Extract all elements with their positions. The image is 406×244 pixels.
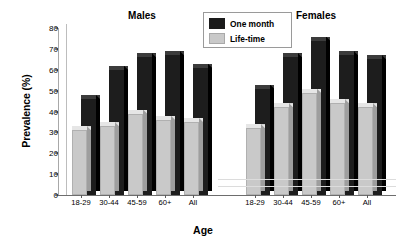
x-tick-mark (137, 195, 138, 198)
x-tick-label: 60+ (333, 198, 346, 207)
x-tick-label: All (363, 198, 371, 207)
bar (184, 122, 199, 195)
bar (156, 120, 171, 195)
x-tick-label: 45-59 (127, 198, 146, 207)
legend-label-life-time: Life-time (230, 34, 265, 44)
x-tick-mark (193, 195, 194, 198)
x-tick-label: 30-44 (99, 198, 118, 207)
bar (358, 107, 373, 195)
bar (274, 107, 289, 195)
legend-item-life-time: Life-time (209, 32, 265, 45)
x-tick-label: 30-44 (273, 198, 292, 207)
legend-item-one-month: One month (209, 17, 274, 30)
y-axis-line-inner (66, 24, 67, 195)
bar (100, 126, 115, 195)
y-tick-label: 20 (28, 149, 58, 158)
prevalence-bar-chart: Prevalence (%) Age 01020304050607080 18-… (0, 0, 406, 244)
y-tick-label: 10 (28, 170, 58, 179)
y-axis-line (58, 28, 59, 195)
legend-swatch-one-month (209, 18, 225, 29)
chart-legend: One month Life-time (203, 12, 292, 48)
y-tick-label: 60 (28, 65, 58, 74)
bar (330, 103, 345, 195)
grid-line (218, 179, 396, 180)
x-tick-mark (283, 195, 284, 198)
x-tick-mark (339, 195, 340, 198)
x-tick-mark (109, 195, 110, 198)
bar (72, 130, 87, 195)
y-tick-label: 40 (28, 107, 58, 116)
y-tick-label: 50 (28, 86, 58, 95)
y-tick-label: 30 (28, 128, 58, 137)
panel-title: Females (296, 10, 336, 21)
legend-swatch-life-time (209, 33, 225, 44)
y-tick-label: 70 (28, 44, 58, 53)
x-tick-mark (165, 195, 166, 198)
y-tick-label: 0 (28, 191, 58, 200)
x-tick-mark (255, 195, 256, 198)
x-axis-title: Age (0, 224, 406, 236)
x-tick-mark (367, 195, 368, 198)
bar (128, 114, 143, 195)
y-tick-label: 80 (28, 24, 58, 33)
x-tick-mark (81, 195, 82, 198)
x-tick-label: All (189, 198, 197, 207)
panel-title: Males (128, 10, 156, 21)
legend-label-one-month: One month (230, 19, 274, 29)
x-tick-mark (311, 195, 312, 198)
y-axis: 01020304050607080 (24, 0, 58, 244)
x-tick-label: 18-29 (245, 198, 264, 207)
x-tick-label: 18-29 (71, 198, 90, 207)
x-tick-label: 60+ (159, 198, 172, 207)
plot-area: 18-2930-4445-5960+All18-2930-4445-5960+A… (58, 28, 396, 195)
grid-line (218, 186, 396, 187)
x-tick-label: 45-59 (301, 198, 320, 207)
